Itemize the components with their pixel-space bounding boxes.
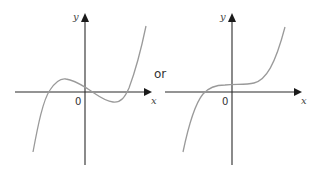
left-y-axis-arrow-icon bbox=[81, 13, 89, 22]
right-origin-label: 0 bbox=[222, 96, 228, 107]
right-x-label: x bbox=[301, 95, 307, 106]
left-y-label: y bbox=[72, 11, 79, 22]
left-x-label: x bbox=[151, 95, 157, 106]
right-y-label: y bbox=[219, 11, 226, 22]
or-separator: or bbox=[154, 67, 166, 81]
left-origin-label: 0 bbox=[75, 96, 81, 107]
left-graph: y x 0 bbox=[15, 11, 157, 165]
left-cubic-curve bbox=[33, 26, 146, 152]
right-cubic-curve bbox=[183, 27, 285, 152]
right-graph: y x 0 bbox=[165, 11, 307, 165]
right-y-axis-arrow-icon bbox=[228, 13, 236, 22]
cubic-graphs-diagram: y x 0 or y x 0 bbox=[0, 0, 320, 174]
